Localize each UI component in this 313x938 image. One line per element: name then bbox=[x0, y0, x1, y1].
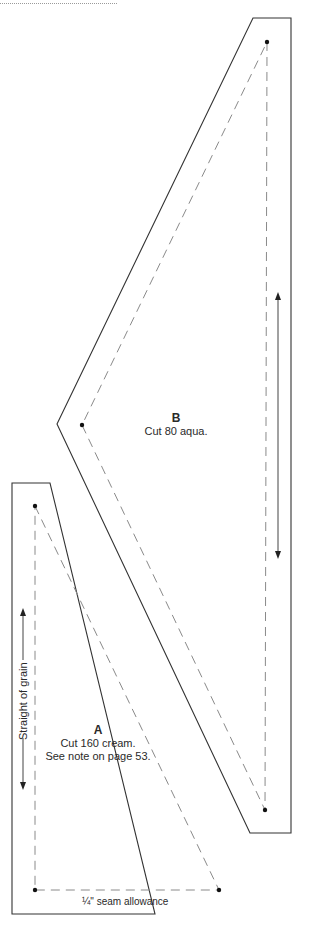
piece-b-label: B Cut 80 aqua. bbox=[126, 412, 226, 438]
piece-a-cut-line bbox=[12, 483, 155, 914]
piece-b-dot-left bbox=[80, 423, 84, 427]
piece-b-dot-bottom bbox=[263, 808, 267, 812]
piece-b-instruction: Cut 80 aqua. bbox=[126, 425, 226, 438]
piece-a-instruction: Cut 160 cream. bbox=[38, 737, 158, 750]
seam-allowance-label: ¼" seam allowance bbox=[82, 896, 168, 907]
piece-b-letter: B bbox=[126, 412, 226, 425]
straight-of-grain-label: Straight of grain bbox=[17, 662, 29, 740]
piece-a-label: A Cut 160 cream. See note on page 53. bbox=[38, 724, 158, 763]
piece-b-dot-top bbox=[265, 40, 269, 44]
piece-a-dot-bottom-left bbox=[33, 888, 37, 892]
piece-a-dot-top bbox=[33, 504, 37, 508]
piece-a-letter: A bbox=[38, 724, 158, 737]
piece-a bbox=[12, 483, 221, 914]
piece-a-seam-line bbox=[35, 506, 219, 890]
piece-a-note: See note on page 53. bbox=[38, 750, 158, 763]
template-diagram bbox=[0, 0, 313, 938]
piece-a-dot-bottom-right bbox=[217, 888, 221, 892]
